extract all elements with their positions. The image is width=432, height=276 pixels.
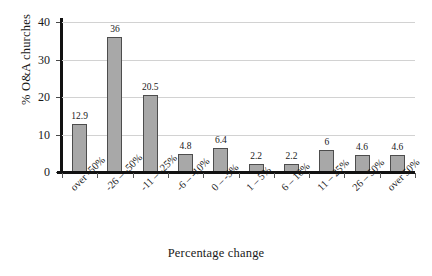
y-axis-tick-label: 0 [16, 165, 50, 180]
x-axis-tick-mark [380, 173, 381, 178]
bar-value-label: 2.2 [271, 151, 311, 161]
x-axis-tick-mark [415, 173, 416, 178]
bar [72, 124, 87, 172]
x-axis-tick-mark [133, 173, 134, 178]
gridline [62, 22, 415, 23]
plot-area: 12.93620.54.86.42.22.264.64.6 [62, 22, 415, 172]
x-axis-tick-mark [309, 173, 310, 178]
bar-value-label: 2.2 [236, 151, 276, 161]
bar-value-label: 20.5 [130, 82, 170, 92]
x-axis-tick-mark [97, 173, 98, 178]
bar-value-label: 6.4 [201, 135, 241, 145]
x-axis-tick-mark [62, 173, 63, 178]
x-axis-tick-mark [168, 173, 169, 178]
bar-value-label: 4.6 [377, 142, 417, 152]
x-axis-tick-mark [203, 173, 204, 178]
x-axis-tick-mark [274, 173, 275, 178]
bar-chart-figure: % O&A churches 403020100 12.93620.54.86.… [0, 0, 432, 276]
bar-value-label: 4.6 [342, 142, 382, 152]
bar-value-label: 12.9 [60, 111, 100, 121]
bar [107, 37, 122, 172]
bar-value-label: 4.8 [166, 141, 206, 151]
y-axis-tick-label: 20 [16, 90, 50, 105]
y-axis-tick-label: 30 [16, 53, 50, 68]
y-axis-tick-label: 40 [16, 15, 50, 30]
bar-value-label: 36 [95, 24, 135, 34]
x-axis-title: Percentage change [0, 246, 432, 261]
x-axis-tick-mark [344, 173, 345, 178]
bar [143, 95, 158, 172]
bar-value-label: 6 [307, 137, 347, 147]
y-axis-tick-label: 10 [16, 128, 50, 143]
x-axis-tick-mark [239, 173, 240, 178]
